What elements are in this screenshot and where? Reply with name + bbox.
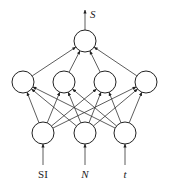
output-node (74, 30, 96, 52)
edge-input-0-hidden-0 (27, 92, 39, 123)
neural-network-diagram: SSINt (0, 0, 170, 191)
edge-input-2-hidden-3 (129, 92, 142, 123)
input-label-0: SI (38, 168, 48, 180)
hidden-node-1 (53, 71, 75, 93)
output-label: S (90, 8, 96, 20)
hidden-node-3 (135, 71, 157, 93)
input-label-2: t (123, 168, 127, 180)
input-node-2 (114, 122, 136, 144)
edge-hidden-1-output (69, 51, 80, 72)
input-node-1 (74, 122, 96, 144)
input-label-1: N (80, 168, 89, 180)
edge-input-2-hidden-2 (109, 92, 121, 123)
input-node-0 (32, 122, 54, 144)
hidden-node-2 (94, 71, 116, 93)
edge-hidden-2-output (90, 51, 100, 72)
hidden-node-0 (12, 71, 34, 93)
